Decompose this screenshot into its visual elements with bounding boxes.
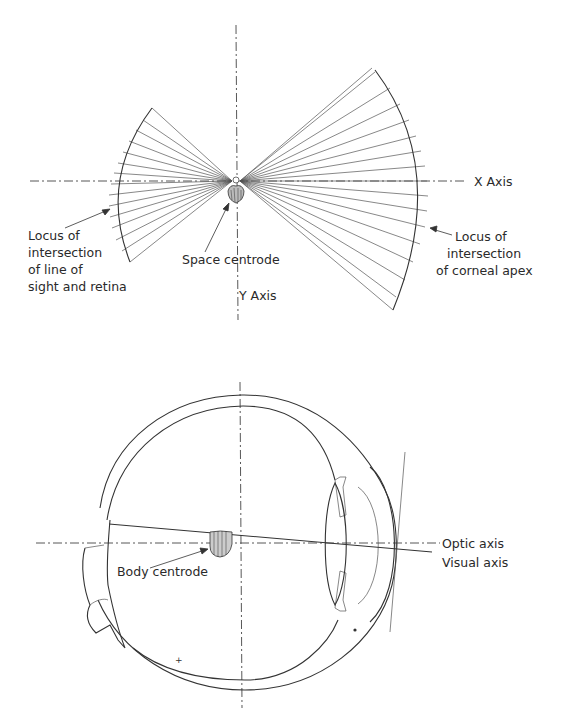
- svg-text:sight and retina: sight and retina: [28, 279, 127, 294]
- left-fan-rays: [109, 108, 232, 262]
- svg-text:intersection: intersection: [28, 245, 102, 260]
- svg-text:of line of: of line of: [28, 262, 83, 277]
- svg-text:Locus of: Locus of: [28, 228, 80, 243]
- svg-text:intersection: intersection: [447, 246, 521, 261]
- space-centrode-label: Space centrode: [182, 252, 280, 267]
- left-locus-arc: [118, 108, 152, 262]
- visual-axis-line: [109, 524, 432, 552]
- retina-lower: [133, 620, 338, 680]
- visual-axis-label: Visual axis: [442, 555, 508, 570]
- annotation-arrows: [65, 203, 452, 252]
- optic-axis-label: Optic axis: [442, 536, 504, 551]
- y-axis-line: [236, 25, 238, 320]
- vertical-axis-line: [240, 382, 242, 708]
- eye-rotation-diagram: X Axis Y Axis Space centrode Locus of in…: [0, 0, 562, 718]
- sclera-outer: [98, 395, 396, 690]
- x-axis-label: X Axis: [474, 174, 512, 189]
- body-centrode-shape: [210, 531, 232, 557]
- corneal-tangent-line: [390, 452, 405, 632]
- cornea: [370, 467, 394, 622]
- retina-upper: [107, 406, 335, 520]
- small-mark: +: [175, 655, 183, 665]
- right-fan-rays: [240, 68, 428, 310]
- y-axis-label: Y Axis: [238, 288, 277, 303]
- small-dot: [353, 628, 356, 631]
- space-centrode-figure: X Axis Y Axis Space centrode Locus of in…: [28, 25, 533, 320]
- eyeball-cross-section: + Body centrode Optic axis Visual axis: [36, 382, 508, 708]
- body-centrode-label: Body centrode: [117, 564, 208, 579]
- svg-text:Locus of: Locus of: [455, 229, 507, 244]
- svg-text:of corneal apex: of corneal apex: [436, 263, 533, 278]
- right-locus-label: Locus of intersection of corneal apex: [436, 229, 533, 278]
- left-locus-label: Locus of intersection of line of sight a…: [28, 228, 127, 294]
- optic-nerve: [83, 520, 125, 648]
